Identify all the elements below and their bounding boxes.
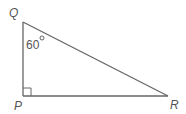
- triangle-diagram: Q P R 60: [0, 0, 186, 114]
- vertex-label-q: Q: [9, 6, 18, 20]
- side-qr: [23, 22, 168, 96]
- triangle-pqr: [23, 22, 168, 96]
- degree-symbol: [40, 36, 44, 40]
- vertex-label-p: P: [14, 99, 22, 113]
- vertex-label-r: R: [170, 98, 179, 112]
- right-angle-marker: [23, 88, 31, 96]
- angle-q-value: 60: [26, 38, 40, 52]
